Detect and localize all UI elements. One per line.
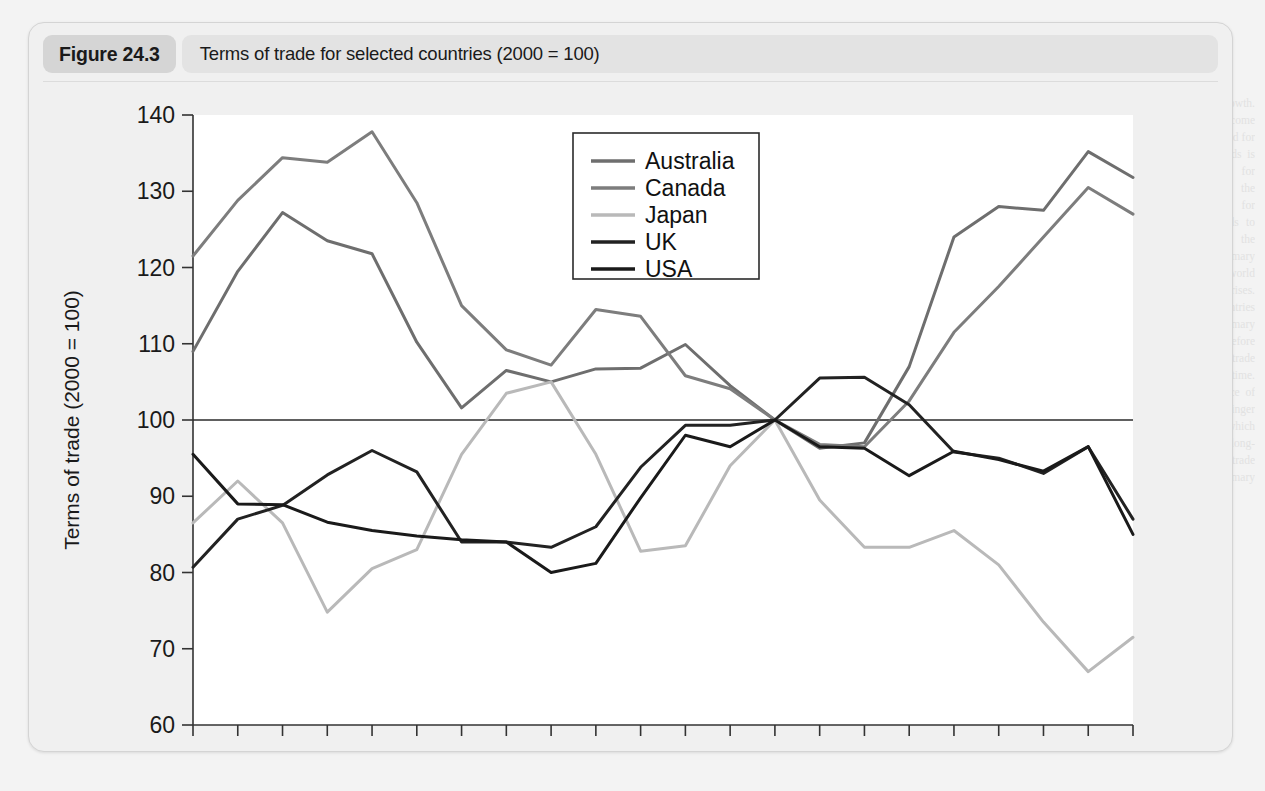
y-tick-label: 60 bbox=[149, 712, 175, 738]
figure-number-badge: Figure 24.3 bbox=[43, 35, 176, 73]
figure-number-label: Figure 24.3 bbox=[59, 43, 160, 66]
legend-label-uk: UK bbox=[645, 229, 678, 255]
chart-svg: 60708090100110120130140 1987198919911993… bbox=[43, 85, 1220, 740]
y-tick-label: 140 bbox=[137, 102, 175, 128]
figure-caption-label: Terms of trade for selected countries (2… bbox=[200, 43, 600, 65]
y-tick-label: 110 bbox=[138, 331, 175, 357]
x-axis-ticks: 1987198919911993199519971999200120032005… bbox=[167, 725, 1133, 740]
y-tick-label: 90 bbox=[149, 483, 175, 509]
legend-label-canada: Canada bbox=[645, 175, 726, 201]
y-tick-label: 100 bbox=[137, 407, 175, 433]
legend-label-japan: Japan bbox=[645, 202, 708, 228]
y-axis-ticks: 60708090100110120130140 bbox=[137, 102, 193, 738]
y-axis-title: Terms of trade (2000 = 100) bbox=[60, 290, 83, 550]
line-chart: 60708090100110120130140 1987198919911993… bbox=[43, 85, 1220, 740]
figure-header: Figure 24.3 Terms of trade for selected … bbox=[43, 35, 1218, 73]
legend-label-australia: Australia bbox=[645, 148, 735, 174]
y-tick-label: 120 bbox=[137, 255, 175, 281]
y-tick-label: 80 bbox=[149, 560, 175, 586]
y-tick-label: 130 bbox=[137, 178, 175, 204]
figure-caption-bar: Terms of trade for selected countries (2… bbox=[182, 35, 1218, 73]
chart-legend: AustraliaCanadaJapanUKUSA bbox=[573, 133, 759, 282]
figure-panel: Figure 24.3 Terms of trade for selected … bbox=[28, 22, 1233, 752]
legend-label-usa: USA bbox=[645, 256, 693, 282]
figure-header-divider bbox=[43, 81, 1218, 82]
y-tick-label: 70 bbox=[149, 636, 175, 662]
